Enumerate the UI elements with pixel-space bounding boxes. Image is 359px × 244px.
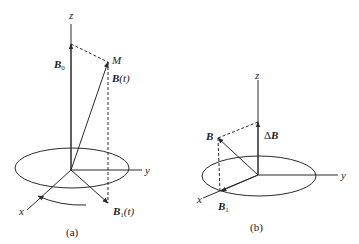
figure-canvas: z y x B0 M B(t) B1(t) (a) z y x ΔB B B1 … <box>0 0 359 244</box>
b-label: B <box>205 130 213 142</box>
dashed-deltab-to-b <box>218 122 258 138</box>
y-label-a: y <box>144 164 150 176</box>
y-label-b: y <box>340 169 346 181</box>
dashed-b0-to-m <box>71 44 108 62</box>
caption-a: (a) <box>66 226 79 239</box>
delta-b-label: ΔB <box>264 129 278 141</box>
b0-label: B0 <box>53 58 65 72</box>
bt-vector <box>71 62 108 170</box>
b1-label: B1 <box>217 200 229 214</box>
b1-vector <box>221 175 258 191</box>
z-label-a: z <box>68 9 74 21</box>
bt-label: B(t) <box>111 72 130 85</box>
panel-a: z y x B0 M B(t) B1(t) (a) <box>15 9 150 239</box>
x-label-b: x <box>196 193 202 205</box>
panel-b: z y x ΔB B B1 (b) <box>196 69 346 234</box>
z-label-b: z <box>254 69 260 81</box>
rotation-arrow-icon <box>38 196 86 205</box>
b1t-vector <box>71 170 108 203</box>
b1t-label: B1(t) <box>112 205 135 219</box>
caption-b: (b) <box>250 221 263 234</box>
ellipse-b <box>202 156 316 196</box>
x-label-a: x <box>18 205 24 217</box>
dashed-b-to-b1 <box>218 138 220 191</box>
m-label: M <box>111 54 122 66</box>
